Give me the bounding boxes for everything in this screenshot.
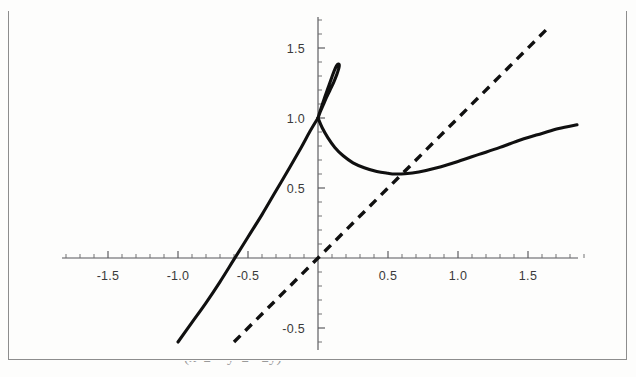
plot-canvas: -1.5-1.0-0.50.51.01.51.51.00.5-0.5 <box>0 0 636 377</box>
x-tick-label: -1.5 <box>97 269 120 283</box>
figure-root: -1.5-1.0-0.50.51.01.51.51.00.5-0.5 (x^2 … <box>0 0 636 377</box>
axis-tick-labels-group: -1.5-1.0-0.50.51.01.51.51.00.5-0.5 <box>97 42 538 336</box>
x-tick-label: 1.0 <box>449 269 467 283</box>
figure-caption: (x^2 + y^2 - 2y) <box>184 361 282 366</box>
figure-caption-clip: (x^2 + y^2 - 2y) <box>8 361 627 377</box>
y-tick-label: 1.0 <box>287 112 305 126</box>
x-tick-label: -1.0 <box>167 269 190 283</box>
curve-solid-left-branch <box>178 118 318 342</box>
data-curves-group <box>178 26 577 342</box>
y-tick-label: 0.5 <box>287 182 305 196</box>
x-tick-label: 0.5 <box>379 269 397 283</box>
curve-solid-right-branch <box>318 118 577 174</box>
curve-solid-loop <box>318 64 339 118</box>
x-tick-label: 1.5 <box>519 269 537 283</box>
y-tick-label: -0.5 <box>282 322 305 336</box>
y-tick-label: 1.5 <box>287 42 305 56</box>
x-tick-label: -0.5 <box>237 269 260 283</box>
